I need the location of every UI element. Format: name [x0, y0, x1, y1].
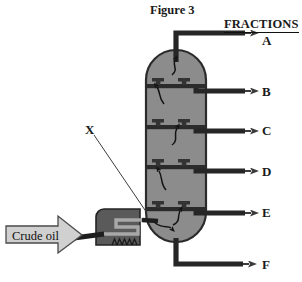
fractions-header: FRACTIONS: [224, 17, 299, 33]
label-x: X: [85, 122, 94, 138]
x-leader-line: [94, 135, 147, 213]
figure-canvas: Figure 3 FRACTIONS A B C D E F X Crude o…: [0, 0, 302, 282]
fraction-label-c: C: [262, 123, 271, 139]
outlet-pipe-f: [176, 238, 249, 264]
fraction-label-a: A: [262, 33, 271, 49]
crude-oil-label: Crude oil: [12, 229, 59, 244]
outlet-pipe-e: [196, 211, 251, 213]
figure-title: Figure 3: [150, 3, 195, 18]
fraction-label-b: B: [262, 84, 271, 100]
outlet-pipe-c: [196, 129, 251, 131]
fraction-label-d: D: [262, 164, 271, 180]
outlet-pipe-d: [196, 169, 251, 171]
fraction-label-e: E: [262, 205, 271, 221]
fraction-label-f: F: [262, 257, 270, 273]
